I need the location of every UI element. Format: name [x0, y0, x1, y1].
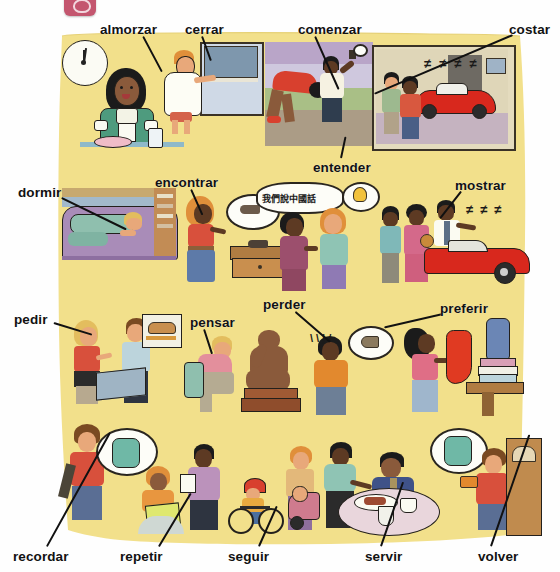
preferir-table	[466, 382, 524, 394]
entender-bubble-text: 我們說中國話	[262, 192, 316, 205]
label-perder: perder	[263, 297, 306, 312]
scene-mostrar: ≠≠≠	[380, 200, 528, 296]
label-dormir: dormir	[18, 185, 61, 200]
pedir-counter	[96, 367, 146, 400]
costar-car-wheel-rear	[472, 104, 487, 119]
scene-cerrar-person	[160, 50, 208, 130]
pedir-menu-burger	[148, 322, 176, 334]
label-seguir: seguir	[228, 549, 269, 564]
lightbulb-icon	[353, 187, 367, 202]
seguir-baby-head	[292, 486, 308, 502]
seguir-stroller-wheel	[290, 516, 304, 530]
label-volver: volver	[478, 549, 518, 564]
entender-woman-1	[278, 212, 314, 290]
preferir-table-leg	[482, 392, 494, 416]
scene-repetir-man	[186, 444, 226, 530]
illustration-canvas: ≠≠≠≠	[0, 0, 560, 572]
keys-icon	[361, 336, 379, 348]
label-recordar: recordar	[13, 549, 69, 564]
scene-dormir	[62, 188, 178, 276]
scene-repetir-woman	[138, 466, 184, 528]
vocabulary-plate-page: ≠≠≠≠	[0, 0, 560, 572]
servir-cup	[400, 498, 417, 513]
scene-pensar-student	[196, 336, 242, 412]
backpack-icon-right	[444, 436, 472, 466]
label-pedir: pedir	[14, 312, 48, 327]
costar-onlooker-2	[400, 76, 422, 140]
backpack-icon-left	[112, 438, 140, 468]
scene-preferir-woman	[404, 328, 446, 412]
label-pensar: pensar	[190, 315, 235, 330]
encontrar-drawer-knob	[258, 265, 262, 269]
seguir-bike-wheel-rear	[228, 508, 254, 534]
label-servir: servir	[365, 549, 402, 564]
label-almorzar: almorzar	[100, 22, 157, 37]
scene-pensar-thinker	[244, 330, 300, 414]
label-repetir: repetir	[120, 549, 163, 564]
encontrar-bubble-mouse	[240, 205, 260, 214]
label-comenzar: comenzar	[298, 22, 362, 37]
label-entender: entender	[313, 160, 371, 175]
encontrar-mouse	[248, 240, 268, 248]
costar-car-wheel-front	[422, 104, 437, 119]
seguir-bike-frame	[240, 506, 270, 509]
entender-woman-2	[318, 208, 354, 290]
window-pane	[204, 46, 258, 78]
costar-car-windshield	[436, 83, 468, 95]
label-mostrar: mostrar	[455, 178, 506, 193]
preferir-blue-sweater	[486, 318, 510, 360]
label-encontrar: encontrar	[155, 175, 218, 190]
servir-food	[364, 497, 386, 505]
label-preferir: preferir	[440, 301, 488, 316]
scene-encontrar-woman	[182, 196, 222, 282]
label-costar: costar	[509, 22, 550, 37]
scene-comenzar	[265, 42, 375, 147]
label-cerrar: cerrar	[185, 22, 224, 37]
preferir-red-sweater	[446, 330, 472, 384]
pedir-menu-line	[146, 336, 176, 340]
